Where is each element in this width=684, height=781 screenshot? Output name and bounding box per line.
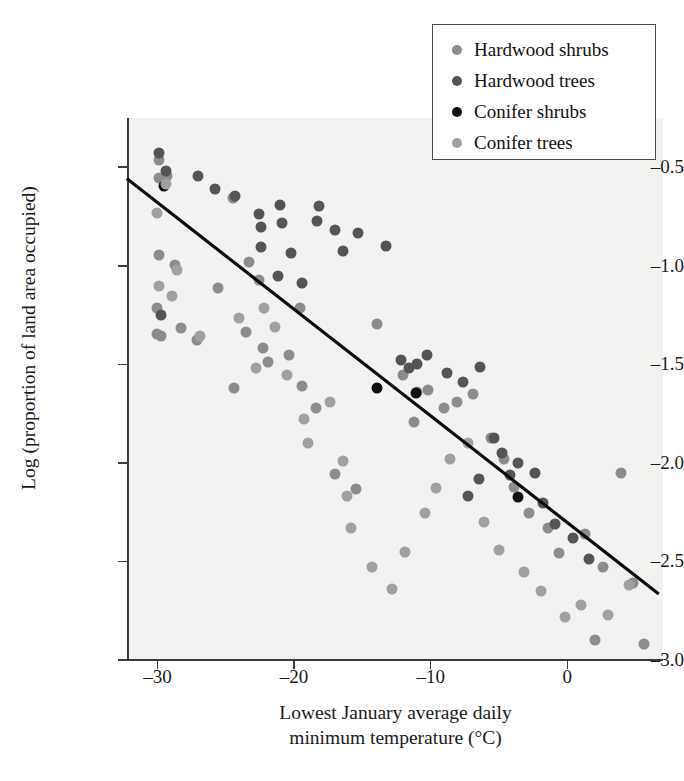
data-point [623,580,634,591]
data-point [241,326,252,337]
y-axis-line [127,118,129,661]
data-point [559,611,570,622]
data-point [297,381,308,392]
data-point [153,249,164,260]
x-axis-title-line2: minimum temperature (°C) [128,725,663,750]
data-point [580,528,591,539]
data-point [372,318,383,329]
data-point [212,283,223,294]
x-tick-label: –20 [280,666,309,688]
data-point [338,455,349,466]
data-point [330,468,341,479]
y-tick [118,659,127,661]
data-point [298,413,309,424]
data-point [312,216,323,227]
data-point [638,639,649,650]
data-point [410,387,421,398]
data-point [313,200,324,211]
data-point [589,635,600,646]
data-point [458,377,469,388]
data-point [494,544,505,555]
data-point [584,554,595,565]
data-point [366,562,377,573]
data-point [286,248,297,259]
data-point [253,208,264,219]
data-point [529,467,540,478]
data-point [496,448,507,459]
y-axis-title: Log (proportion of land area occupied) [18,103,40,573]
data-point [338,246,349,257]
data-point [194,330,205,341]
y-tick-label: –1.5 [572,353,684,375]
scatter-plot-figure: –0.5–1.0–1.5–2.0–2.5–3.0 –30–20–100 Lowe… [0,0,684,781]
data-point [554,547,565,558]
legend-item: Conifer trees [433,127,655,158]
y-tick [118,166,127,168]
data-point [256,222,267,233]
data-point [513,492,524,503]
data-point [387,584,398,595]
y-tick [118,364,127,366]
data-point [409,416,420,427]
data-point [263,357,274,368]
data-point [230,190,241,201]
y-tick-label: –3.0 [572,649,684,671]
data-point [324,396,335,407]
y-tick-label: –2.0 [572,452,684,474]
plot-area [128,118,663,660]
data-point [276,218,287,229]
data-point [518,567,529,578]
legend-item: Hardwood shrubs [433,34,655,65]
y-tick-label: –1.0 [572,255,684,277]
data-point [603,609,614,620]
data-point [504,469,515,480]
data-point [297,277,308,288]
data-point [597,562,608,573]
x-tick-label: 0 [563,666,573,688]
data-point [444,453,455,464]
data-point [228,383,239,394]
data-point [234,313,245,324]
data-point [615,467,626,478]
data-point [243,256,254,267]
data-point [353,228,364,239]
data-point [537,498,548,509]
data-point [193,171,204,182]
data-point [171,264,182,275]
data-point [167,291,178,302]
data-point [509,481,520,492]
data-point [431,482,442,493]
data-point [576,599,587,610]
y-tick [118,265,127,267]
data-point [399,546,410,557]
data-point [451,396,462,407]
legend: Hardwood shrubsHardwood treesConifer shr… [432,24,656,160]
data-point [175,322,186,333]
data-point [380,241,391,252]
data-point [153,148,164,159]
data-point [250,363,261,374]
data-point [420,508,431,519]
legend-item: Conifer shrubs [433,96,655,127]
data-point [156,330,167,341]
data-point [275,199,286,210]
legend-item-label: Conifer trees [474,132,573,154]
data-point [513,457,524,468]
data-point [156,310,167,321]
data-point [488,433,499,444]
x-tick-label: –30 [143,666,172,688]
data-point [258,303,269,314]
data-point [536,586,547,597]
data-point [442,368,453,379]
data-point [462,438,473,449]
data-point [478,517,489,528]
data-point [257,342,268,353]
legend-item: Hardwood trees [433,65,655,96]
data-point [160,166,171,177]
legend-item-label: Hardwood shrubs [474,39,609,61]
x-axis-title-line1: Lowest January average daily [128,700,663,725]
legend-marker-icon [452,45,462,55]
data-point [302,438,313,449]
data-point [272,270,283,281]
data-point [269,321,280,332]
